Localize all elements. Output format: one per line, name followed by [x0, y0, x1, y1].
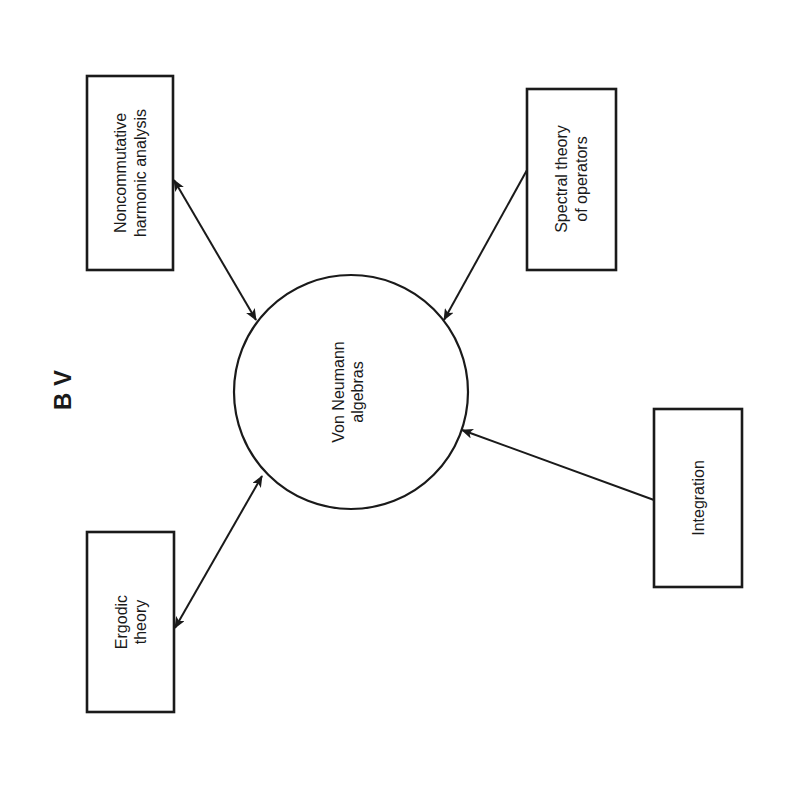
node-box [527, 89, 616, 270]
node-label-line1: Spectral theory [553, 125, 570, 233]
node-label-line1: Noncommutative [112, 113, 129, 233]
center-label-line2: algebras [349, 361, 366, 422]
node-noncommutative-harmonic-analysis: Noncommutative harmonic analysis [87, 76, 173, 270]
diagram-canvas: B V Von Neumann algebras Noncommutative … [0, 0, 790, 795]
center-label-line1: Von Neumann [330, 341, 347, 442]
edge-integration-to-center [462, 430, 654, 500]
node-spectral-theory-of-operators: Spectral theory of operators [527, 89, 616, 270]
node-label-line2: harmonic analysis [132, 109, 149, 237]
edge-ergodic-bidirectional [175, 476, 262, 628]
node-label-line2: theory [132, 600, 149, 644]
node-label-line1: Ergodic [113, 595, 130, 649]
node-integration: Integration [654, 409, 742, 587]
node-label-line1: Integration [690, 460, 707, 536]
node-ergodic-theory: Ergodic theory [87, 532, 174, 712]
figure-label: B V [49, 370, 76, 410]
center-node-von-neumann-algebras: Von Neumann algebras [234, 275, 468, 509]
node-label-line2: of operators [573, 136, 590, 221]
edge-noncommutative-bidirectional [174, 180, 256, 320]
node-box [87, 532, 174, 712]
edge-spectral-to-center [444, 170, 527, 320]
node-box [87, 76, 173, 270]
